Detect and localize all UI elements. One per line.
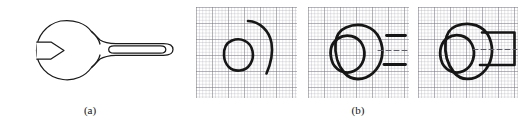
sketch-step-2 — [308, 7, 409, 98]
sketch-panel-step-1 — [196, 7, 297, 98]
sketch-step-1 — [196, 7, 297, 98]
wrench-outline-panel — [0, 0, 186, 100]
sketch-panel-step-2 — [308, 7, 409, 98]
figure-root: (a) (b) — [0, 0, 530, 125]
caption-a: (a) — [62, 104, 118, 116]
graph-paper-bold-grid — [196, 7, 297, 98]
sketch-panel-step-3 — [418, 7, 518, 98]
caption-b: (b) — [330, 104, 386, 116]
wrench-outline-drawing — [0, 0, 186, 100]
wrench-handle-inner-groove — [109, 46, 166, 53]
graph-paper-bold-grid — [418, 7, 518, 98]
sketch-step-3 — [418, 7, 518, 98]
graph-paper-bold-grid — [308, 7, 409, 98]
